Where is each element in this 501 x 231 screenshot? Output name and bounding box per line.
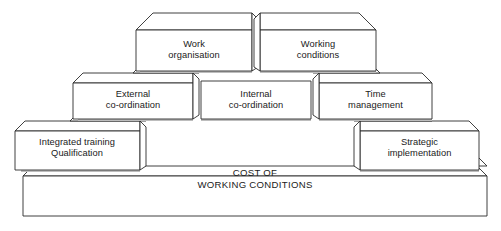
block-work-organisation[interactable] <box>136 13 258 73</box>
time-management-top-surface <box>319 73 432 83</box>
working-conditions-top-surface <box>260 13 376 30</box>
working-conditions-left-face <box>254 13 260 71</box>
strategic-implementation-left-face <box>354 121 360 170</box>
block-working-conditions[interactable] <box>254 13 376 73</box>
strategic-implementation-front-face <box>360 131 479 170</box>
internal-co-ordination-front-face <box>201 81 311 119</box>
integrated-training-right-face <box>140 121 146 170</box>
pyramid-diagram-svg <box>0 0 501 231</box>
base-platform-front-face <box>23 176 487 216</box>
block-strategic-implementation[interactable] <box>354 121 479 172</box>
strategic-implementation-top-surface <box>360 121 479 131</box>
block-time-management[interactable] <box>313 73 432 121</box>
working-conditions-front-face <box>260 30 376 71</box>
block-external-co-ordination[interactable] <box>73 73 199 121</box>
diagram-canvas: Work organisation Working conditions Ext… <box>0 0 501 231</box>
time-management-front-face <box>319 83 432 119</box>
work-organisation-top-surface <box>136 13 252 30</box>
work-organisation-front-face <box>136 30 252 71</box>
external-co-ordination-right-face <box>193 73 199 119</box>
block-internal-co-ordination[interactable] <box>201 81 311 121</box>
external-co-ordination-top-surface <box>73 73 193 83</box>
base-platform <box>23 166 487 216</box>
integrated-training-top-surface <box>15 121 140 131</box>
time-management-left-face <box>313 73 319 119</box>
block-integrated-training-qualification[interactable] <box>15 121 146 172</box>
integrated-training-front-face <box>15 131 140 170</box>
external-co-ordination-front-face <box>73 83 193 119</box>
